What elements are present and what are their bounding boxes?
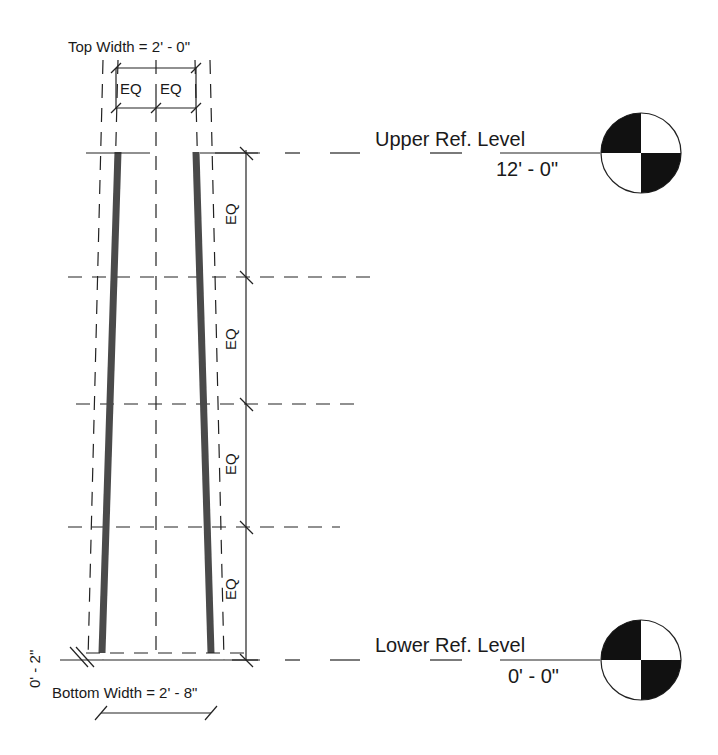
wall-left[interactable] xyxy=(102,152,118,653)
upper-level-elevation: 12' - 0" xyxy=(496,158,558,180)
ref-plane-right-outer[interactable] xyxy=(210,60,224,660)
top-width-eq-right: EQ xyxy=(160,80,182,97)
vertical-eq-1: EQ xyxy=(222,203,239,225)
wall-right[interactable] xyxy=(196,152,211,653)
top-width-label: Top Width = 2' - 0" xyxy=(68,38,190,55)
elevation-drawing: Top Width = 2' - 0" EQ EQ EQ EQ EQ EQ 0'… xyxy=(0,0,718,755)
lower-level-elevation: 0' - 0" xyxy=(508,665,559,687)
ref-plane-left-outer[interactable] xyxy=(88,60,103,660)
level-head-icon xyxy=(601,620,681,700)
top-width-dimension[interactable]: Top Width = 2' - 0" EQ EQ xyxy=(68,38,201,113)
bottom-width-label: Bottom Width = 2' - 8" xyxy=(52,684,197,701)
top-width-eq-left: EQ xyxy=(120,80,142,97)
bottom-width-dimension[interactable]: Bottom Width = 2' - 8" xyxy=(52,684,217,720)
vertical-eq-2: EQ xyxy=(222,328,239,350)
offset-dimension-label: 0' - 2" xyxy=(26,650,43,688)
lower-level-name: Lower Ref. Level xyxy=(375,634,525,656)
vertical-eq-4: EQ xyxy=(222,578,239,600)
upper-level-name: Upper Ref. Level xyxy=(375,128,525,150)
vertical-eq-3: EQ xyxy=(222,453,239,475)
offset-dimension[interactable]: 0' - 2" xyxy=(26,647,94,688)
level-head-icon xyxy=(601,113,681,193)
vertical-eq-dimension[interactable]: EQ EQ EQ EQ xyxy=(215,147,258,667)
